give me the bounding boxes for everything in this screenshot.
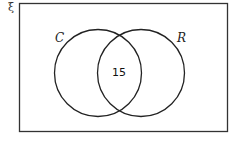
set-r-label: R: [177, 31, 186, 45]
intersection-value: 15: [112, 66, 126, 79]
universal-set-symbol: ξ: [8, 1, 14, 14]
set-c-label: C: [55, 31, 64, 45]
